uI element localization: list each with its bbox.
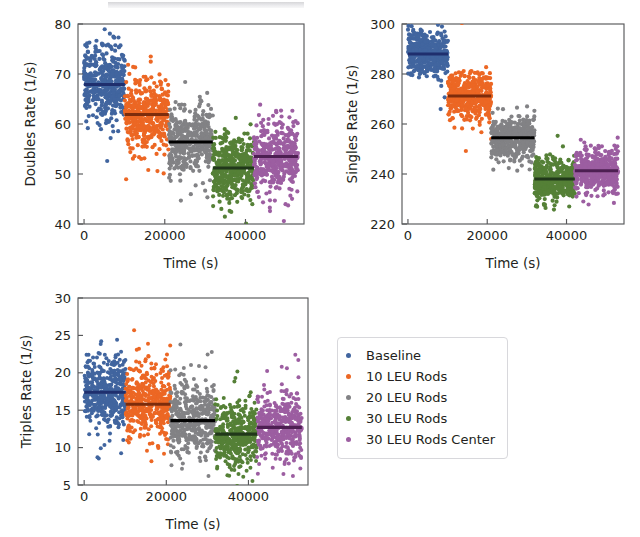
scatter-point — [194, 414, 198, 418]
scatter-point — [88, 419, 92, 423]
scatter-point — [575, 158, 579, 162]
scatter-point — [589, 144, 593, 148]
scatter-point — [106, 363, 110, 367]
scatter-point — [102, 443, 106, 447]
scatter-point — [185, 407, 189, 411]
scatter-point — [452, 86, 456, 90]
scatter-point — [131, 157, 135, 161]
scatter-point — [164, 399, 168, 403]
scatter-point — [259, 411, 263, 415]
legend-item-0[interactable]: Baseline — [346, 345, 495, 366]
scatter-point — [512, 144, 516, 148]
scatter-point — [137, 104, 141, 108]
scatter-point — [423, 48, 427, 52]
scatter-point — [508, 128, 512, 132]
scatter-point — [254, 123, 258, 127]
scatter-point — [278, 457, 282, 461]
scatter-point — [113, 43, 117, 47]
legend-item-4[interactable]: 30 LEU Rods Center — [346, 429, 495, 450]
scatter-point — [579, 157, 583, 161]
y-axis-title: Doubles Rate (1/s) — [22, 61, 38, 186]
scatter-point — [87, 381, 91, 385]
scatter-point — [133, 78, 137, 82]
scatter-point — [176, 126, 180, 130]
scatter-point — [153, 103, 157, 107]
scatter-point — [250, 479, 254, 483]
scatter-point — [428, 30, 432, 34]
scatter-point — [206, 474, 210, 478]
scatter-point — [108, 432, 112, 436]
legend-item-1[interactable]: 10 LEU Rods — [346, 366, 495, 387]
scatter-point — [537, 189, 541, 193]
scatter-point — [538, 168, 542, 172]
scatter-point — [188, 159, 192, 163]
y-tick-label: 240 — [370, 167, 395, 182]
plot-singles: 02000040000220240260280300Time (s)Single… — [344, 14, 632, 272]
scatter-point — [187, 451, 191, 455]
scatter-point — [235, 400, 239, 404]
scatter-point — [217, 153, 221, 157]
scatter-point — [298, 434, 302, 438]
scatter-point — [168, 136, 172, 140]
scatter-point — [128, 367, 132, 371]
scatter-point — [118, 403, 122, 407]
scatter-point — [261, 200, 265, 204]
scatter-point — [111, 129, 115, 133]
scatter-point — [174, 154, 178, 158]
scatter-point — [184, 122, 188, 126]
plot-doubles: 020000400004050607080Time (s)Doubles Rat… — [22, 14, 312, 272]
scatter-point — [602, 188, 606, 192]
scatter-point — [86, 56, 90, 60]
scatter-point — [501, 107, 505, 111]
scatter-point — [99, 77, 103, 81]
scatter-point — [243, 414, 247, 418]
legend-item-3[interactable]: 30 LEU Rods — [346, 408, 495, 429]
scatter-point — [249, 458, 253, 462]
scatter-point — [84, 365, 88, 369]
scatter-point — [187, 435, 191, 439]
scatter-point — [171, 130, 175, 134]
scatter-point — [267, 117, 271, 121]
scatter-point — [197, 122, 201, 126]
scatter-point — [291, 124, 295, 128]
scatter-point — [149, 54, 153, 58]
scatter-point — [548, 152, 552, 156]
scatter-point — [583, 165, 587, 169]
scatter-point — [155, 119, 159, 123]
scatter-point — [113, 49, 117, 53]
scatter-point — [137, 368, 141, 372]
scatter-point — [554, 200, 558, 204]
scatter-point — [193, 111, 197, 115]
scatter-point — [217, 175, 221, 179]
scatter-point — [603, 149, 607, 153]
scatter-point — [490, 152, 494, 156]
scatter-point — [496, 106, 500, 110]
scatter-point — [449, 90, 453, 94]
scatter-point — [467, 76, 471, 80]
scatter-point — [201, 133, 205, 137]
scatter-point — [561, 191, 565, 195]
scatter-point — [215, 186, 219, 190]
legend-item-2[interactable]: 20 LEU Rods — [346, 387, 495, 408]
scatter-point — [257, 443, 261, 447]
scatter-point — [290, 430, 294, 434]
scatter-point — [525, 122, 529, 126]
scatter-point — [265, 391, 269, 395]
scatter-point — [483, 100, 487, 104]
legend-item-label: 10 LEU Rods — [366, 369, 447, 384]
scatter-point — [279, 114, 283, 118]
scatter-point — [116, 35, 120, 39]
scatter-point — [104, 63, 108, 67]
scatter-point — [415, 64, 419, 68]
scatter-point — [95, 115, 99, 119]
scatter-point — [196, 432, 200, 436]
scatter-point — [276, 146, 280, 150]
scatter-point — [183, 392, 187, 396]
scatter-point — [201, 113, 205, 117]
scatter-point — [585, 152, 589, 156]
scatter-point — [130, 137, 134, 141]
scatter-point — [203, 119, 207, 123]
scatter-point — [246, 171, 250, 175]
scatter-point — [442, 29, 446, 33]
scatter-point — [232, 443, 236, 447]
